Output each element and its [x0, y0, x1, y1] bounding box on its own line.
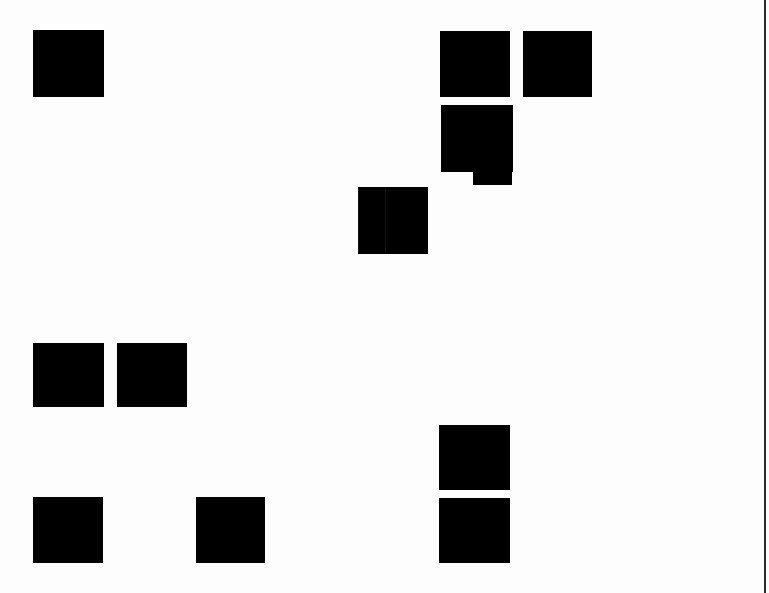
notched-block[interactable] [0, 0, 769, 593]
notched-block-tab [473, 172, 512, 185]
right-edge-rule[interactable] [764, 0, 766, 593]
screenshot-canvas [0, 0, 769, 593]
notched-block-body [441, 105, 513, 172]
